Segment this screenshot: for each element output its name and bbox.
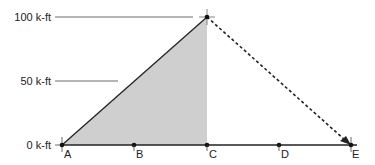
label-c: C xyxy=(209,148,217,160)
y-label-0k: 0 k-ft xyxy=(27,139,51,151)
point-a xyxy=(60,143,65,148)
y-label-100k: 100 k-ft xyxy=(14,11,51,23)
y-label-50k: 50 k-ft xyxy=(20,75,51,87)
label-a: A xyxy=(64,148,72,160)
peak-point xyxy=(205,15,210,20)
label-b: B xyxy=(136,148,143,160)
point-e xyxy=(349,143,354,148)
label-d: D xyxy=(281,148,289,160)
altitude-profile-diagram: 100 k-ft 50 k-ft 0 k-ft A B C D E xyxy=(0,0,375,165)
descent-dashed-line xyxy=(207,17,345,140)
label-e: E xyxy=(352,148,359,160)
